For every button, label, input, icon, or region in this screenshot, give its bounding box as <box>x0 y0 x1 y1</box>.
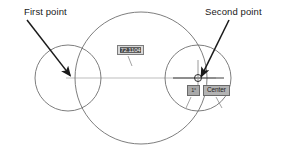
first-point-arrow <box>27 20 70 76</box>
osnap-leader-tick <box>216 97 222 108</box>
angle-input-value: 1° <box>191 88 196 94</box>
dimension-input-field[interactable]: 72.1104 <box>117 45 144 55</box>
dimension-leader-tick <box>128 56 132 66</box>
angle-input-field[interactable]: 1° <box>187 85 200 96</box>
second-point-arrow <box>201 20 229 76</box>
first-point-label: First point <box>24 6 67 17</box>
cad-drawing-canvas: First point Second point 72.1104 1° Cent… <box>0 0 286 152</box>
dimension-input-value: 72.1104 <box>120 47 142 53</box>
center-osnap-tooltip: Center <box>203 85 230 96</box>
osnap-tooltip-label: Center <box>207 87 226 94</box>
cad-vector-layer <box>0 0 286 152</box>
angle-leader-tick <box>186 97 191 108</box>
second-point-label: Second point <box>205 6 262 17</box>
